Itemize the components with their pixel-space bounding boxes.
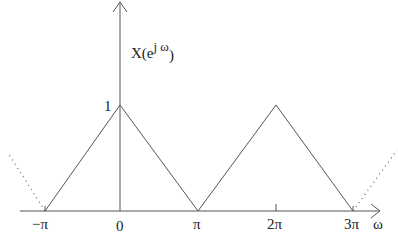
y-axis-label: X(ej ω) [131, 39, 174, 64]
tick-label-pi: π [193, 216, 201, 232]
tick-label-0: 0 [116, 218, 124, 234]
periodic-extension-left [8, 153, 45, 211]
omega-axis-label: ω [373, 216, 383, 232]
periodic-extension-right [353, 150, 397, 211]
spectrum-curve [45, 105, 353, 211]
tick-label-3pi: 3π [344, 216, 360, 232]
tick-label-2pi: 2π [267, 216, 283, 232]
spectrum-diagram: X(ej ω) 1 −π 0 π 2π 3π ω [0, 0, 398, 235]
peak-label: 1 [104, 98, 112, 114]
tick-label-neg-pi: −π [32, 216, 48, 232]
